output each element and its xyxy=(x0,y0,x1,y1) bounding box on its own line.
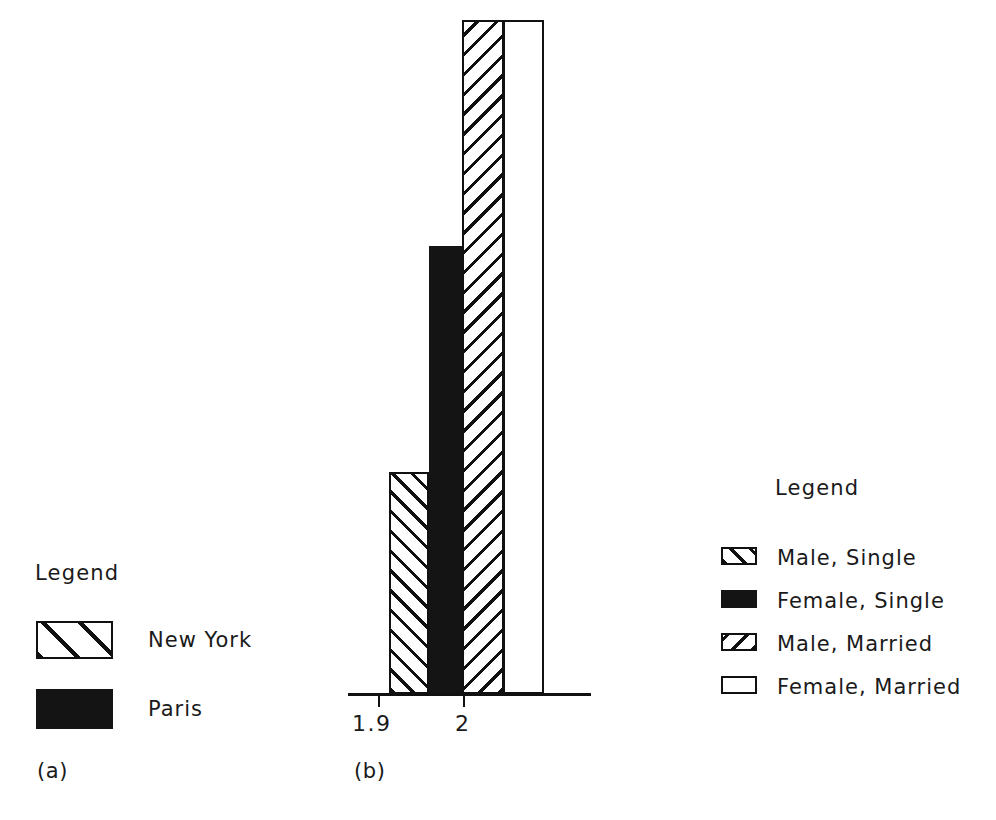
legend-a-swatch-paris xyxy=(36,689,113,729)
x-axis-line xyxy=(348,693,591,696)
legend-b-label-female-married: Female, Married xyxy=(777,677,961,698)
legend-a-title: Legend xyxy=(35,563,119,584)
panel-a-caption: (a) xyxy=(37,761,68,782)
x-axis-tick-label-1: 1.9 xyxy=(352,713,392,735)
x-axis-tick-2 xyxy=(463,694,465,707)
legend-b-title: Legend xyxy=(775,478,859,499)
legend-a-swatch-new-york xyxy=(36,621,113,659)
legend-b-swatch-female-single xyxy=(721,590,757,608)
legend-b-label-male-married: Male, Married xyxy=(777,634,933,655)
legend-a-label-paris: Paris xyxy=(148,699,203,720)
figure-root: 1.9 2 (b) Legend Male, Single Female, Si… xyxy=(0,0,996,820)
bar-male-single xyxy=(389,472,429,694)
bar-female-married xyxy=(503,20,544,694)
legend-b-label-male-single: Male, Single xyxy=(777,548,917,569)
x-axis-tick-1 xyxy=(378,694,380,707)
legend-b-swatch-male-married xyxy=(721,633,757,651)
bar-male-married xyxy=(462,20,504,694)
x-axis-tick-label-2: 2 xyxy=(455,713,471,735)
legend-b-label-female-single: Female, Single xyxy=(777,591,945,612)
bar-female-single xyxy=(429,246,463,694)
legend-b-swatch-male-single xyxy=(721,547,757,565)
legend-a-label-new-york: New York xyxy=(148,630,252,651)
panel-b-caption: (b) xyxy=(354,761,386,782)
legend-b-swatch-female-married xyxy=(721,676,757,694)
